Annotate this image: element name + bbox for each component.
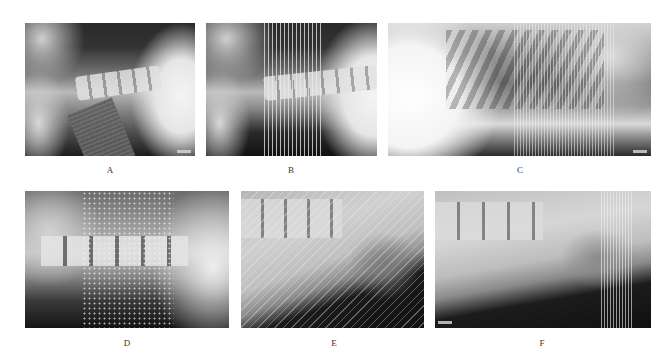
radiograph-panel-b <box>206 23 377 156</box>
panel-label-f: F <box>532 338 552 348</box>
scale-marker <box>438 321 452 324</box>
radiograph-panel-c <box>388 23 651 156</box>
panel-label-c: C <box>510 165 530 175</box>
scale-marker <box>633 150 647 153</box>
radiograph-panel-e <box>241 191 424 328</box>
panel-label-a: A <box>100 165 120 175</box>
panel-label-b: B <box>281 165 301 175</box>
radiograph-panel-a <box>25 23 195 156</box>
panel-label-e: E <box>324 338 344 348</box>
artifact-vertical-lines <box>514 23 614 156</box>
artifact-vertical-lines <box>601 191 631 328</box>
panel-label-d: D <box>117 338 137 348</box>
radiograph-panel-f <box>435 191 651 328</box>
vertebral-column <box>435 202 543 240</box>
artifact-diagonal-hatch <box>241 191 424 328</box>
radiograph-panel-d <box>25 191 229 328</box>
artifact-vertical-lines <box>264 23 322 156</box>
artifact-dot-grid <box>82 191 174 328</box>
scale-marker <box>177 150 191 153</box>
